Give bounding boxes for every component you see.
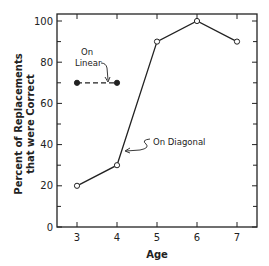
x-axis-title: Age [146, 249, 168, 260]
y-axis-title-line2: that were Correct [25, 74, 36, 174]
data-point [74, 80, 79, 85]
x-tick-label: 7 [234, 232, 240, 243]
x-tick-label: 6 [194, 232, 200, 243]
data-point [114, 80, 119, 85]
y-axis-title-line1: Percent of Replacements [13, 53, 24, 194]
x-tick-label: 3 [74, 232, 80, 243]
annotation-on-linear-arrow [101, 63, 108, 80]
x-axis-tick-labels: 34567 [74, 232, 240, 243]
y-axis-tick-labels: 020406080100 [34, 16, 53, 233]
x-axis-ticks [77, 14, 237, 227]
data-point [154, 39, 159, 44]
chart: 020406080100 34567 On Linear On Diagonal… [0, 0, 269, 266]
annotation-on-linear-line2: Linear [75, 58, 102, 68]
data-point [194, 18, 199, 23]
y-tick-label: 80 [40, 57, 53, 68]
annotation-on-linear-line1: On [81, 47, 93, 57]
y-tick-label: 100 [34, 16, 53, 27]
y-tick-label: 40 [40, 139, 53, 150]
plot-frame [57, 14, 257, 227]
y-tick-label: 0 [47, 222, 53, 233]
x-tick-label: 5 [154, 232, 160, 243]
series-on-diagonal-line [77, 21, 237, 186]
data-point [74, 183, 79, 188]
y-tick-label: 60 [40, 98, 53, 109]
y-tick-label: 20 [40, 180, 53, 191]
series-on-diagonal-markers [74, 18, 239, 188]
data-point [114, 163, 119, 168]
annotation-on-diagonal-arrow [126, 139, 150, 151]
annotation-on-diagonal: On Diagonal [153, 137, 205, 147]
x-tick-label: 4 [114, 232, 120, 243]
data-point [234, 39, 239, 44]
